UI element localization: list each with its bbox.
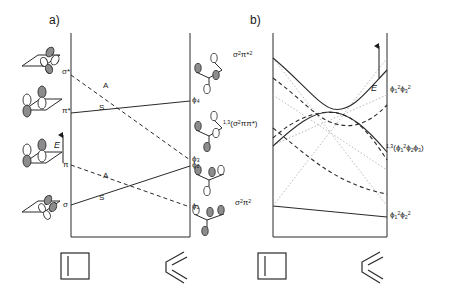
orbital-cartoon-phi4 — [195, 53, 222, 93]
symmetry-label-S-lower: S — [99, 194, 104, 202]
correlation-sigma-phi2 — [71, 166, 190, 205]
panel-a-correlation-lines — [71, 75, 190, 207]
orbital-cartoon-phi3 — [195, 111, 222, 151]
orbital-label-phi1: ϕ₁ — [192, 202, 199, 210]
symmetry-label-A-upper: A — [103, 82, 108, 90]
symmetry-label-S-upper: S — [99, 104, 104, 112]
panel-a-tag: a) — [49, 14, 60, 26]
orbital-cartoon-sigma-star — [22, 46, 61, 75]
state-curve-openshell-upper-dashed — [273, 78, 387, 126]
diabatic-open-shell-b — [273, 95, 387, 170]
structure-butadiene-a — [166, 252, 187, 283]
structure-cyclobutene — [61, 253, 89, 279]
state-label-sigma2-pi-pistar: 1,3(σ2ππ*) — [223, 120, 258, 128]
state-label-phi1sq-phi3sq: ϕ12ϕ32 — [390, 85, 411, 94]
orbital-label-sigma-star: σ* — [62, 68, 70, 76]
diabatic-open-shell-a — [273, 95, 387, 145]
structure-cyclobutene-b — [258, 253, 286, 279]
panel-a-axis-label: E — [54, 141, 60, 150]
orbital-cartoon-sigma — [22, 194, 60, 220]
panel-a-frame — [71, 33, 190, 237]
panel-b-axis-label: E — [371, 84, 377, 93]
panel-b-diabatic-lines — [273, 58, 387, 206]
orbital-label-phi4: ϕ₄ — [192, 96, 200, 104]
state-label-phi1sq-phi2-phi3: 1,3(ϕ12ϕ2ϕ3) — [386, 144, 424, 153]
orbital-cartoon-phi2 — [195, 165, 224, 195]
orbital-label-pi-star: π* — [62, 107, 71, 115]
orbital-label-phi2: ϕ₂ — [192, 161, 200, 169]
state-curve-ground-solid — [273, 206, 387, 217]
correlation-sigmastar-phi3 — [71, 75, 190, 160]
figure-canvas — [0, 0, 449, 292]
panel-b-tag: b) — [250, 14, 261, 26]
orbital-label-pi: π — [63, 161, 69, 169]
figure-root: a) b) σ* π* π σ E A S A S ϕ₄ ϕ₃ ϕ₂ ϕ₁ E … — [0, 0, 449, 292]
state-curve-upper-solid — [273, 58, 387, 109]
panel-b-frame — [273, 33, 387, 237]
state-label-sigma2-pistar2: σ2π*2 — [233, 51, 252, 59]
structure-butadiene-b — [362, 252, 383, 283]
state-label-sigma2-pi2: σ2π2 — [235, 199, 251, 207]
symmetry-label-A-lower: A — [103, 172, 108, 180]
orbital-cartoon-pi-star — [23, 86, 62, 117]
panel-b-openshell-curves — [273, 78, 387, 194]
orbital-label-sigma: σ — [63, 201, 68, 209]
state-label-phi1sq-phi2sq: ϕ12ϕ22 — [390, 211, 411, 220]
correlation-pistar-phi4 — [71, 101, 190, 113]
